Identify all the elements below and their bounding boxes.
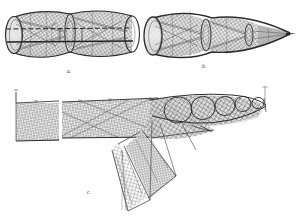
figure-c-label: c. — [87, 189, 91, 195]
figure-a-mouth-mesh — [6, 17, 23, 54]
figure-a-label: a. — [67, 68, 71, 74]
figure-b-mouth-mesh — [144, 17, 162, 55]
net-diagram-illustration: a. — [0, 0, 298, 220]
figure-b-label: b. — [202, 63, 206, 69]
engraving-plate: a. — [0, 0, 298, 220]
